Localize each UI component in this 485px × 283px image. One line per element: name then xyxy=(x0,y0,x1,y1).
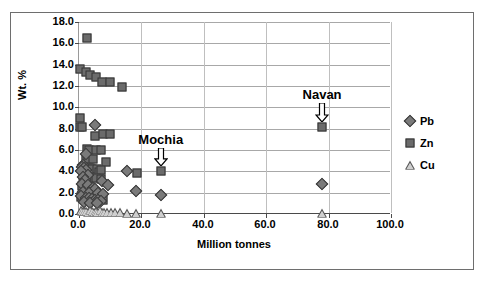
y-tick-label: 10.0 xyxy=(53,101,74,112)
data-point-zn xyxy=(118,83,127,92)
diamond-icon xyxy=(404,115,416,127)
triangle-marker xyxy=(406,163,414,170)
legend-label: Zn xyxy=(420,137,433,149)
square-icon xyxy=(404,137,416,149)
gridline-vertical xyxy=(329,22,330,213)
y-tick-label: 4.0 xyxy=(59,165,74,176)
gridline-horizontal xyxy=(79,43,390,44)
plot-area: MochiaNavan xyxy=(78,22,390,214)
gridline-horizontal xyxy=(79,193,390,194)
data-point-zn xyxy=(96,146,105,155)
y-tick-mark xyxy=(75,107,79,108)
gridline-vertical xyxy=(391,22,392,213)
legend-item-zn[interactable]: Zn xyxy=(404,132,466,154)
data-point-zn xyxy=(83,34,92,43)
gridline-horizontal xyxy=(79,65,390,66)
square-marker xyxy=(406,139,415,148)
legend-item-pb[interactable]: Pb xyxy=(404,110,466,132)
chart-legend: PbZnCu xyxy=(404,110,466,176)
y-tick-label: 18.0 xyxy=(53,16,74,27)
legend-label: Pb xyxy=(420,115,434,127)
gridline-vertical xyxy=(266,22,267,213)
x-axis-tick-labels: 0.020.040.060.080.0100.0 xyxy=(78,218,390,234)
annotation-label-mochia: Mochia xyxy=(138,132,183,147)
x-tick-label: 100.0 xyxy=(376,218,404,230)
y-tick-mark xyxy=(75,86,79,87)
y-tick-label: 12.0 xyxy=(53,80,74,91)
gridline-vertical xyxy=(204,22,205,213)
diamond-marker xyxy=(404,115,417,128)
x-tick-label: 40.0 xyxy=(192,218,213,230)
data-point-pb xyxy=(120,165,133,178)
data-point-cu xyxy=(123,210,131,217)
annotation-label-navan: Navan xyxy=(303,87,342,102)
data-point-cu xyxy=(318,210,326,217)
gridline-horizontal xyxy=(79,107,390,108)
chart-figure: SEDEX Wt. % MochiaNavan 0.02.04.06.08.01… xyxy=(0,0,485,283)
x-tick-label: 80.0 xyxy=(317,218,338,230)
data-point-pb xyxy=(155,188,168,201)
y-tick-mark xyxy=(75,43,79,44)
legend-label: Cu xyxy=(420,159,435,171)
data-point-zn xyxy=(78,122,87,131)
y-tick-mark xyxy=(75,150,79,151)
data-point-zn xyxy=(133,169,142,178)
data-point-cu xyxy=(157,210,165,217)
y-tick-label: 8.0 xyxy=(59,123,74,134)
y-tick-label: 2.0 xyxy=(59,187,74,198)
y-tick-mark xyxy=(75,22,79,23)
x-tick-label: 0.0 xyxy=(70,218,85,230)
legend-item-cu[interactable]: Cu xyxy=(404,154,466,176)
gridline-horizontal xyxy=(79,22,390,23)
annotation-arrow-mochia xyxy=(154,148,168,170)
annotation-arrow-navan xyxy=(315,103,329,126)
x-tick-label: 60.0 xyxy=(254,218,275,230)
gridline-horizontal xyxy=(79,129,390,130)
data-point-cu xyxy=(132,210,140,217)
gridline-horizontal xyxy=(79,150,390,151)
gridline-vertical xyxy=(141,22,142,213)
y-tick-label: 16.0 xyxy=(53,37,74,48)
x-tick-label: 20.0 xyxy=(129,218,150,230)
data-point-zn xyxy=(106,130,115,139)
y-tick-label: 14.0 xyxy=(53,59,74,70)
y-axis-title: Wt. % xyxy=(16,70,28,100)
data-point-zn xyxy=(105,77,114,86)
data-point-pb xyxy=(315,178,328,191)
x-axis-title: Million tonnes xyxy=(78,238,390,250)
y-axis-tick-labels: 0.02.04.06.08.010.012.014.016.018.0 xyxy=(30,22,74,214)
y-tick-label: 6.0 xyxy=(59,144,74,155)
triangle-icon xyxy=(404,159,416,171)
